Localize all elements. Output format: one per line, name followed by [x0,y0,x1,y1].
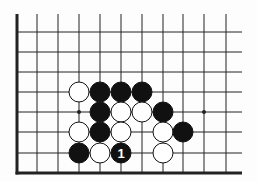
star-point [77,110,81,114]
star-point [202,110,206,114]
white-stone [153,122,173,142]
white-stone [132,102,152,122]
black-stone [173,122,193,142]
white-stone [111,122,131,142]
white-stone [69,122,89,142]
white-stone [111,102,131,122]
black-stone [90,82,110,102]
white-stone [90,143,110,163]
black-stone [153,102,173,122]
black-stone [132,82,152,102]
go-board: 1 [0,0,257,182]
move-number-label: 1 [117,146,124,161]
black-stone [90,122,110,142]
black-stone [111,82,131,102]
black-stone [90,102,110,122]
black-stone [69,143,89,163]
white-stone [153,143,173,163]
white-stone [69,82,89,102]
